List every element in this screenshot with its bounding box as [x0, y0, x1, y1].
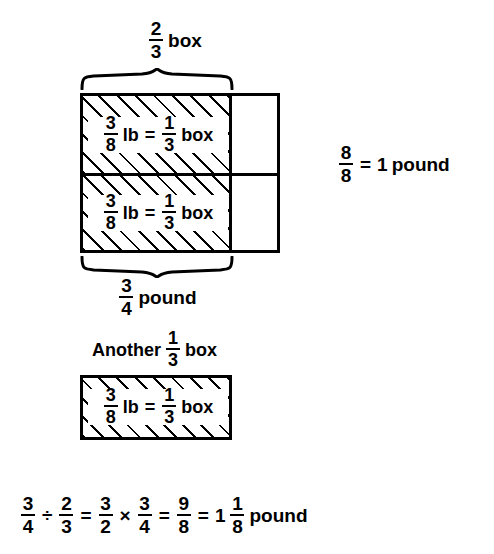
main-box-middle-divider	[80, 173, 280, 176]
upper-cell-weight-denominator: 8	[105, 136, 117, 154]
top-fraction-label: 2 3 box	[110, 18, 240, 64]
lower-cell-portion-numerator: 1	[163, 192, 175, 210]
bottom-fraction: 3 4	[119, 276, 133, 318]
top-fraction: 2 3	[149, 19, 163, 61]
equation-term-c-denominator: 2	[99, 517, 112, 536]
upper-cell-label: 3 8 lb = 1 3 box	[88, 117, 228, 153]
second-box-portion-unit: box	[179, 397, 215, 418]
upper-cell-portion-fraction: 1 3	[162, 114, 176, 154]
equation-unit: pound	[247, 505, 309, 527]
bottom-brace-shape	[80, 256, 234, 278]
another-label-word: box	[183, 340, 219, 361]
bottom-brace	[80, 256, 234, 278]
equation-term-c: 3 2	[99, 494, 113, 536]
second-box-weight-fraction: 3 8	[104, 386, 118, 426]
top-brace-shape	[80, 68, 234, 90]
lower-cell-label: 3 8 lb = 1 3 box	[88, 195, 228, 231]
top-brace	[80, 68, 234, 90]
lower-cell-portion-fraction: 1 3	[162, 192, 176, 232]
equation-term-d-denominator: 4	[138, 517, 151, 536]
bottom-label-word: pound	[136, 287, 198, 309]
another-label-numerator: 1	[167, 329, 179, 347]
right-note-numerator: 8	[340, 143, 353, 162]
upper-cell-weight-unit: lb	[121, 125, 141, 146]
second-box-weight-denominator: 8	[105, 408, 117, 426]
top-fraction-denominator: 3	[150, 42, 163, 61]
lower-cell-equals: =	[141, 203, 160, 224]
right-note-fraction: 8 8	[339, 143, 353, 185]
another-box-label: Another 1 3 box	[90, 328, 219, 372]
second-box-portion-denominator: 3	[163, 408, 175, 426]
upper-cell-equals: =	[141, 125, 160, 146]
equation-term-f-numerator: 1	[231, 494, 244, 513]
second-box-equals: =	[141, 397, 160, 418]
bottom-fraction-label: 3 4 pound	[95, 276, 220, 320]
second-box-weight-numerator: 3	[105, 386, 117, 404]
main-box-vertical-divider	[229, 93, 232, 253]
bottom-fraction-denominator: 4	[120, 299, 133, 318]
lower-cell-weight-unit: lb	[121, 203, 141, 224]
equation-term-e-denominator: 8	[177, 517, 190, 536]
equation-term-b: 2 3	[59, 494, 73, 536]
top-label-word: box	[166, 30, 204, 52]
another-label-denominator: 3	[167, 351, 179, 369]
right-note-equals: =	[356, 154, 375, 176]
right-note-denominator: 8	[340, 166, 353, 185]
lower-cell-weight-numerator: 3	[105, 192, 117, 210]
upper-cell-weight-numerator: 3	[105, 114, 117, 132]
upper-cell-portion-numerator: 1	[163, 114, 175, 132]
upper-cell-portion-unit: box	[179, 125, 215, 146]
lower-cell-portion-unit: box	[179, 203, 215, 224]
second-box-weight-unit: lb	[121, 397, 141, 418]
final-equation: 3 4 ÷ 2 3 = 3 2 × 3 4 =	[18, 488, 309, 544]
equation-equals-3: =	[194, 505, 213, 527]
equation-term-c-numerator: 3	[99, 494, 112, 513]
figure-canvas: 2 3 box 3 8	[0, 0, 494, 554]
equation-term-f: 1 8	[230, 494, 244, 536]
second-box-portion-numerator: 1	[163, 386, 175, 404]
upper-cell-weight-fraction: 3 8	[104, 114, 118, 154]
equation-multiply-operator: ×	[116, 505, 135, 527]
equation-term-e-numerator: 9	[177, 494, 190, 513]
lower-cell-weight-fraction: 3 8	[104, 192, 118, 232]
equation-divide-operator: ÷	[38, 505, 56, 527]
another-label-fraction: 1 3	[166, 329, 180, 369]
equation-term-f-denominator: 8	[231, 517, 244, 536]
right-note: 8 8 = 1 pound	[336, 142, 452, 188]
right-note-value: 1	[375, 154, 390, 176]
equation-term-d: 3 4	[138, 494, 152, 536]
equation-term-a: 3 4	[21, 494, 35, 536]
equation-term-e: 9 8	[177, 494, 191, 536]
equation-equals-1: =	[76, 505, 95, 527]
lower-cell-weight-denominator: 8	[105, 214, 117, 232]
upper-cell-portion-denominator: 3	[163, 136, 175, 154]
equation-term-a-denominator: 4	[22, 517, 35, 536]
lower-cell-portion-denominator: 3	[163, 214, 175, 232]
second-box-portion-fraction: 1 3	[162, 386, 176, 426]
another-label-prefix: Another	[90, 340, 163, 361]
equation-whole-number: 1	[213, 505, 228, 527]
top-fraction-numerator: 2	[150, 19, 163, 38]
second-box-label: 3 8 lb = 1 3 box	[88, 389, 228, 425]
bottom-fraction-numerator: 3	[120, 276, 133, 295]
right-note-unit: pound	[390, 154, 452, 176]
equation-term-a-numerator: 3	[22, 494, 35, 513]
equation-term-d-numerator: 3	[138, 494, 151, 513]
equation-term-b-denominator: 3	[60, 517, 73, 536]
equation-term-b-numerator: 2	[60, 494, 73, 513]
equation-equals-2: =	[155, 505, 174, 527]
